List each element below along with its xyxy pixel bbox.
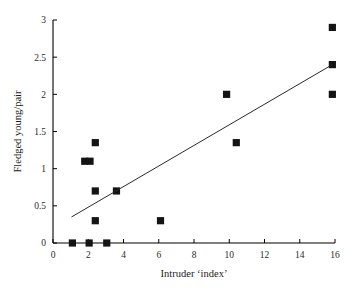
- data-point-marker: [157, 217, 164, 224]
- trendline-group: [72, 65, 333, 217]
- regression-line: [72, 65, 333, 217]
- x-tick-label: 10: [225, 250, 235, 260]
- data-point-marker: [69, 239, 76, 246]
- y-tick-label: 0: [41, 238, 46, 248]
- data-point-marker: [92, 187, 99, 194]
- x-tick-label: 16: [330, 250, 340, 260]
- scatter-chart-figure: 0246810121416 00.511.522.53 Intruder ‘in…: [0, 0, 354, 290]
- x-tick-label: 12: [260, 250, 270, 260]
- scatter-plot-canvas: 0246810121416 00.511.522.53 Intruder ‘in…: [0, 0, 354, 290]
- y-tick-label: 0.5: [34, 201, 46, 211]
- data-point-marker: [329, 24, 336, 31]
- x-tick-label: 2: [86, 250, 91, 260]
- data-point-marker: [86, 158, 93, 165]
- x-tick-label: 14: [295, 250, 305, 260]
- y-axis-title: Fledged young/pair: [12, 90, 23, 172]
- data-markers: [69, 24, 336, 247]
- y-tick-label: 3: [41, 15, 46, 25]
- axes-group: [53, 20, 335, 243]
- y-axis-ticks: 00.511.522.53: [34, 15, 57, 248]
- x-tick-label: 6: [156, 250, 161, 260]
- data-point-marker: [329, 91, 336, 98]
- data-point-marker: [92, 217, 99, 224]
- y-tick-label: 2: [41, 90, 46, 100]
- data-point-marker: [233, 139, 240, 146]
- data-point-marker: [92, 139, 99, 146]
- data-point-marker: [103, 239, 110, 246]
- x-axis-title: Intruder ‘index’: [161, 268, 228, 279]
- data-point-marker: [223, 91, 230, 98]
- x-tick-label: 0: [51, 250, 56, 260]
- x-axis-ticks: 0246810121416: [51, 239, 340, 260]
- y-tick-label: 1: [41, 164, 46, 174]
- x-tick-label: 4: [121, 250, 126, 260]
- data-point-marker: [86, 239, 93, 246]
- x-tick-label: 8: [192, 250, 197, 260]
- y-tick-label: 1.5: [34, 127, 46, 137]
- y-tick-label: 2.5: [34, 53, 46, 63]
